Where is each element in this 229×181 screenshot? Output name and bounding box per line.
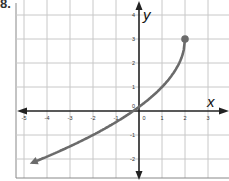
y-axis-arrow-down-icon <box>136 171 143 180</box>
x-tick-label: -5 <box>22 115 27 121</box>
x-tick-label: 1 <box>160 115 163 121</box>
x-axis-arrow-left-icon <box>17 108 27 115</box>
graph-chart: xy-5-4-3-2-10123-2-101234 <box>0 0 229 181</box>
x-tick-label: 0 <box>142 115 145 121</box>
x-tick-label: -4 <box>45 115 50 121</box>
y-tick-label: 3 <box>132 36 135 42</box>
x-tick-label: -3 <box>68 115 73 121</box>
y-tick-label: -1 <box>130 132 135 138</box>
y-tick-label: 4 <box>132 12 135 18</box>
axes <box>17 1 229 180</box>
y-tick-label: 0 <box>132 103 135 109</box>
tick-labels: xy-5-4-3-2-10123-2-101234 <box>22 6 215 162</box>
x-tick-label: 3 <box>206 115 209 121</box>
y-tick-label: 1 <box>132 84 135 90</box>
x-tick-label: 2 <box>183 115 186 121</box>
y-tick-label: 2 <box>132 60 135 66</box>
x-axis-label: x <box>206 93 215 110</box>
function-curve <box>30 35 189 164</box>
y-axis-arrow-up-icon <box>136 1 143 10</box>
grid-lines <box>16 0 229 178</box>
x-tick-label: -2 <box>91 115 96 121</box>
x-axis-arrow-right-icon <box>219 108 229 115</box>
y-tick-label: -2 <box>130 156 135 162</box>
closed-endpoint-dot <box>181 35 189 43</box>
